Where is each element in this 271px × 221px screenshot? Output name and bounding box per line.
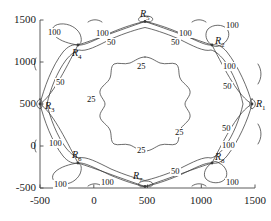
contour-label-4: 50: [170, 38, 181, 47]
contour-arc-right-upper: [258, 64, 261, 84]
contour-arc-right-lower: [258, 124, 261, 144]
node-marker-R1: [251, 103, 254, 106]
contour-label-3: 100: [178, 29, 193, 38]
node-label-R7-text: R7: [133, 170, 143, 181]
x-tick-label-0: 0: [69, 194, 119, 206]
contour-arc-top-left: [88, 20, 102, 22]
x-tick-label-1500: 1500: [230, 194, 271, 206]
node-marker-R7: [144, 185, 147, 188]
contour-arc-top-right: [192, 20, 206, 22]
contour-label-6: 100: [222, 62, 237, 71]
node-label-R6-text: R6: [72, 149, 82, 160]
plot-canvas: [0, 0, 271, 221]
contour-label-12: 100: [100, 178, 115, 187]
node-marker-R4: [77, 44, 80, 47]
contour-label-9: 100: [221, 141, 236, 150]
contour-label-18: 25: [174, 128, 185, 137]
contour-label-16: 25: [136, 62, 147, 71]
node-label-R2-text: R2: [215, 35, 225, 46]
y-tick-label-500: 500: [0, 97, 36, 109]
contour-label-15: 50: [55, 78, 66, 87]
contour-label-2: 50: [106, 38, 117, 47]
x-tick-label-1000: 1000: [176, 194, 226, 206]
node-marker-R2: [211, 44, 214, 47]
y-tick-label-0: 0: [0, 139, 36, 151]
contour-lines: [35, 16, 262, 187]
contour-label-14: 100: [48, 139, 63, 148]
x-tick-label-500: 500: [122, 194, 172, 206]
contour-label-10: 100: [225, 178, 240, 187]
contour-label-19: 25: [136, 146, 147, 155]
node-label-R2: R2: [215, 35, 225, 49]
node-label-R1-text: R1: [256, 98, 266, 109]
contour-label-11: 50: [170, 167, 181, 176]
node-label-R4-text: R4: [72, 47, 82, 58]
node-label-R6: R6: [72, 149, 82, 163]
y-tick-label-1000: 1000: [0, 55, 36, 67]
node-label-R8-text: R8: [215, 151, 225, 162]
contour-label-13: 100: [53, 180, 68, 189]
contour-label-5: 100: [225, 21, 240, 30]
contour-label-8: 50: [221, 124, 232, 133]
node-label-R8: R8: [215, 151, 225, 165]
x-tick-label-neg500: -500: [15, 194, 65, 206]
contour-arc-bottom-right: [192, 184, 206, 186]
node-label-R5-text: R5: [140, 8, 150, 19]
contour-label-17: 25: [86, 95, 97, 104]
contour-label-7: 50: [222, 82, 233, 91]
node-label-R7: R7: [133, 170, 143, 184]
node-marker-R8: [211, 162, 214, 165]
node-label-R1: R1: [256, 98, 266, 112]
y-tick-label-1500: 1500: [0, 13, 36, 25]
y-tick-label-neg500: -500: [0, 181, 36, 193]
node-marker-R3: [39, 103, 42, 106]
contour-label-0: 100: [47, 28, 62, 37]
contour-plot-figure: 1500 1000 500 0 -500 -500 0 500 1000 150…: [0, 0, 271, 221]
node-label-R3: R3: [45, 100, 55, 114]
node-label-R3-text: R3: [45, 100, 55, 111]
node-label-R4: R4: [72, 47, 82, 61]
node-label-R5: R5: [140, 8, 150, 22]
